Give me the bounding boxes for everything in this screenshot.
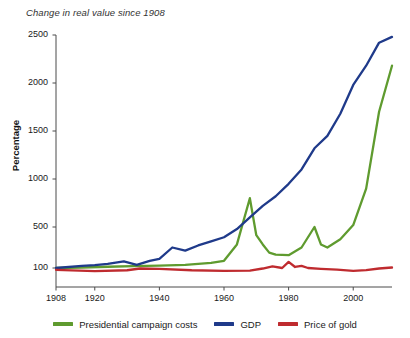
x-tick-label: 1920 <box>75 293 115 303</box>
legend-swatch-icon <box>214 322 234 326</box>
series-line <box>56 37 392 268</box>
x-tick-label: 1908 <box>36 293 76 303</box>
y-tick-label: 1500 <box>14 125 48 135</box>
x-tick-label: 1960 <box>204 293 244 303</box>
chart-root: Change in real value since 1908 Percenta… <box>0 0 410 338</box>
legend-label: Presidential campaign costs <box>79 319 197 330</box>
legend-item[interactable]: GDP <box>214 319 261 330</box>
chart-legend: Presidential campaign costsGDPPrice of g… <box>0 314 410 334</box>
x-tick-label: 1940 <box>139 293 179 303</box>
legend-label: Price of gold <box>304 319 357 330</box>
y-tick-label: 2000 <box>14 77 48 87</box>
legend-label: GDP <box>240 319 261 330</box>
y-tick-label: 500 <box>14 221 48 231</box>
y-tick-label: 2500 <box>14 29 48 39</box>
legend-item[interactable]: Presidential campaign costs <box>53 319 197 330</box>
x-tick-label: 1980 <box>269 293 309 303</box>
legend-swatch-icon <box>53 322 73 326</box>
x-tick-label: 2000 <box>333 293 373 303</box>
legend-item[interactable]: Price of gold <box>278 319 357 330</box>
y-tick-label: 100 <box>14 262 48 272</box>
plot-area: Percentage 10050010001500200025001908192… <box>0 0 410 310</box>
legend-swatch-icon <box>278 322 298 326</box>
y-tick-label: 1000 <box>14 173 48 183</box>
plot-svg <box>0 0 410 310</box>
